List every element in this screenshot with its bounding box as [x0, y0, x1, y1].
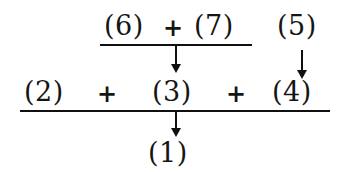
operator-plus-upper: +: [163, 16, 183, 40]
term-2: (2): [24, 78, 64, 105]
term-3: (3): [152, 78, 192, 105]
term-6: (6): [104, 12, 144, 39]
arrow-upper-to-three-head: [171, 64, 181, 73]
term-5: (5): [277, 12, 317, 39]
diagram-canvas: (6) + (7) (5) (2) + (3) + (4) (1): [0, 0, 350, 172]
term-4: (4): [272, 78, 312, 105]
term-1: (1): [148, 139, 188, 166]
term-7: (7): [194, 12, 234, 39]
arrow-upper-to-three-shaft: [175, 44, 177, 66]
arrow-main-to-one-head: [171, 128, 181, 137]
operator-plus-right: +: [226, 82, 246, 106]
arrow-five-to-four-shaft: [301, 50, 303, 72]
operator-plus-left: +: [97, 82, 117, 106]
arrow-main-to-one-shaft: [175, 110, 177, 130]
